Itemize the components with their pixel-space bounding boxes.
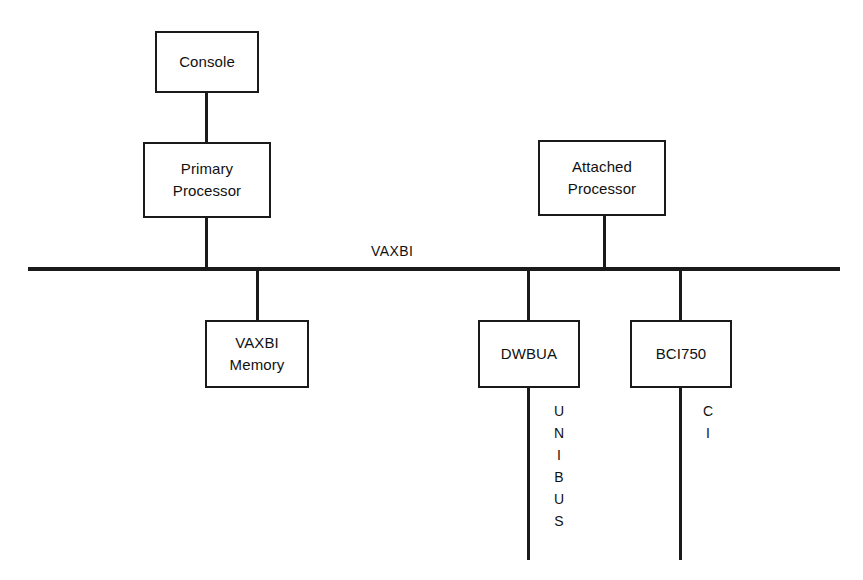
node-attached-processor[interactable]: Attached Processor [538,140,666,216]
bus-label-ci: C I [700,400,716,444]
node-attached-processor-label-line1: Attached [572,156,632,178]
node-vaxbi-memory-label-line2: Memory [230,354,285,376]
bus-label-unibus: U N I B U S [551,400,567,532]
node-vaxbi-memory-label-line1: VAXBI [235,332,279,354]
node-bci750-label: BCI750 [656,343,707,365]
vaxbi-system-diagram: Console Primary Processor Attached Proce… [0,0,863,580]
bus-label-unibus-char-5: S [554,510,563,532]
bus-label-unibus-char-0: U [554,400,564,422]
connector-bus-to-bci750 [679,269,682,321]
bus-label-ci-char-1: I [706,422,710,444]
bus-label-unibus-char-1: N [554,422,564,444]
node-attached-processor-label-line2: Processor [568,178,636,200]
bus-label-unibus-char-4: U [554,488,564,510]
connector-dwbua-to-unibus [527,388,530,560]
node-console-label: Console [179,51,235,73]
connector-bus-to-vaxbi-memory [256,269,259,321]
connector-primary-processor-to-bus [205,216,208,271]
node-vaxbi-memory[interactable]: VAXBI Memory [205,320,309,388]
node-console[interactable]: Console [155,31,259,93]
bus-label-vaxbi: VAXBI [371,243,413,259]
bus-label-unibus-char-2: I [557,444,561,466]
node-primary-processor[interactable]: Primary Processor [143,142,271,218]
bus-label-unibus-char-3: B [554,466,563,488]
connector-console-to-primary-processor [205,91,208,144]
connector-bus-to-dwbua [527,269,530,321]
connector-bci750-to-ci [679,388,682,560]
bus-label-ci-char-0: C [703,400,713,422]
connector-attached-processor-to-bus [603,214,606,271]
node-dwbua-label: DWBUA [501,343,557,365]
node-primary-processor-label-line2: Processor [173,180,241,202]
node-primary-processor-label-line1: Primary [181,158,233,180]
node-dwbua[interactable]: DWBUA [478,320,580,388]
node-bci750[interactable]: BCI750 [630,320,732,388]
vaxbi-bus-line [28,267,840,271]
